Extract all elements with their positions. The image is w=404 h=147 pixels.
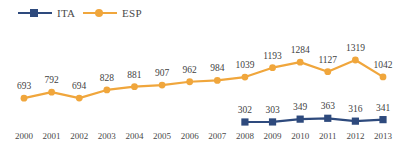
data-label-esp-2007: 984 xyxy=(210,63,224,73)
data-label-esp-2004: 881 xyxy=(127,70,141,80)
data-point-ita-2008[interactable] xyxy=(241,118,248,125)
data-label-esp-2000: 693 xyxy=(17,81,31,91)
data-point-esp-2001[interactable] xyxy=(48,89,55,96)
series-line-esp xyxy=(24,60,383,98)
data-point-esp-2013[interactable] xyxy=(380,73,387,80)
series-line-ita xyxy=(245,118,383,122)
data-label-esp-2008: 1039 xyxy=(235,60,254,70)
data-label-ita-2012: 316 xyxy=(348,104,362,114)
x-tick-2005: 2005 xyxy=(153,131,171,141)
series-canvas xyxy=(0,0,404,147)
data-label-esp-2006: 962 xyxy=(183,65,197,75)
data-point-ita-2012[interactable] xyxy=(352,118,359,125)
data-label-esp-2012: 1319 xyxy=(346,43,365,53)
data-label-esp-2001: 792 xyxy=(44,75,58,85)
data-label-ita-2008: 302 xyxy=(238,105,252,115)
data-point-ita-2013[interactable] xyxy=(379,116,386,123)
x-tick-2011: 2011 xyxy=(319,131,337,141)
data-point-esp-2011[interactable] xyxy=(324,68,331,75)
x-tick-2013: 2013 xyxy=(374,131,392,141)
data-point-ita-2009[interactable] xyxy=(269,118,276,125)
data-point-esp-2012[interactable] xyxy=(352,57,359,64)
data-point-ita-2011[interactable] xyxy=(324,115,331,122)
data-label-esp-2009: 1193 xyxy=(263,51,282,61)
data-point-esp-2003[interactable] xyxy=(103,87,110,94)
x-tick-2003: 2003 xyxy=(98,131,116,141)
data-point-esp-2009[interactable] xyxy=(269,64,276,71)
x-tick-2006: 2006 xyxy=(181,131,199,141)
data-point-esp-2010[interactable] xyxy=(297,59,304,66)
data-point-esp-2006[interactable] xyxy=(186,78,193,85)
data-label-ita-2009: 303 xyxy=(265,105,279,115)
data-label-ita-2011: 363 xyxy=(321,101,335,111)
x-tick-2008: 2008 xyxy=(236,131,254,141)
data-point-esp-2000[interactable] xyxy=(21,95,28,102)
data-label-esp-2013: 1042 xyxy=(374,60,393,70)
x-tick-2010: 2010 xyxy=(291,131,309,141)
x-tick-2001: 2001 xyxy=(43,131,61,141)
data-label-ita-2013: 341 xyxy=(376,103,390,113)
data-point-esp-2002[interactable] xyxy=(76,95,83,102)
data-label-esp-2005: 907 xyxy=(155,68,169,78)
data-point-esp-2005[interactable] xyxy=(159,82,166,89)
data-label-esp-2003: 828 xyxy=(100,73,114,83)
data-label-esp-2010: 1284 xyxy=(291,45,310,55)
data-label-esp-2002: 694 xyxy=(72,81,86,91)
x-tick-2002: 2002 xyxy=(70,131,88,141)
x-tick-2000: 2000 xyxy=(15,131,33,141)
data-point-ita-2010[interactable] xyxy=(297,116,304,123)
line-chart: ITA ESP 69379269482888190796298410391193… xyxy=(0,0,404,147)
x-tick-2004: 2004 xyxy=(125,131,143,141)
data-point-esp-2007[interactable] xyxy=(214,77,221,84)
plot-area xyxy=(0,0,404,147)
data-label-esp-2011: 1127 xyxy=(318,55,337,65)
x-tick-2009: 2009 xyxy=(264,131,282,141)
data-label-ita-2010: 349 xyxy=(293,102,307,112)
data-point-esp-2008[interactable] xyxy=(242,74,249,81)
data-point-esp-2004[interactable] xyxy=(131,83,138,90)
x-tick-2007: 2007 xyxy=(208,131,226,141)
x-tick-2012: 2012 xyxy=(346,131,364,141)
